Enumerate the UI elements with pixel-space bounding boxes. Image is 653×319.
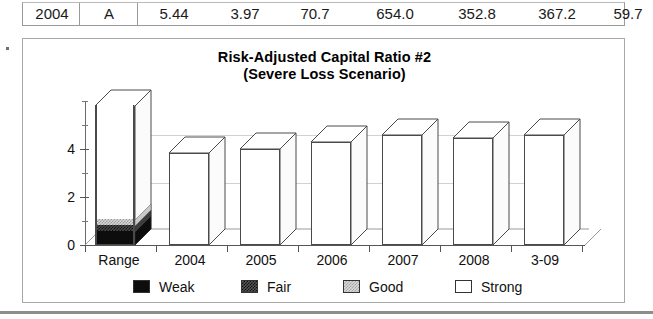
table-row: 2004 A 5.44 3.97 70.7 654.0 352.8 367.2 … [22,2,625,26]
y-tick-4 [80,149,89,150]
table-cell-value-3: 70.7 [277,3,353,25]
bar-range-front-face [95,106,135,245]
page-bottom-rule [0,311,653,314]
legend-swatch-fair-icon [241,280,258,293]
legend-label-fair: Fair [267,278,291,296]
plot-area: 4 2 0 [23,39,626,304]
legend-label-strong: Strong [481,278,522,296]
legend-swatch-weak-icon [133,280,150,293]
y-axis-label-2: 2 [53,190,75,204]
bar-2006-front-face [311,142,351,245]
table-cell-value-5: 352.8 [437,3,517,25]
x-axis-label-2007: 2007 [370,252,436,268]
bar-range-segment-strong [96,105,134,219]
table-cell-year: 2004 [25,3,79,25]
screenshot-page: 2004 A 5.44 3.97 70.7 654.0 352.8 367.2 … [0,0,653,319]
x-axis-label-2006: 2006 [299,252,365,268]
legend-swatch-strong-icon [455,280,472,293]
x-axis-label-range: Range [86,252,152,268]
y-tick-minor-1 [82,221,88,222]
bar-2007 [382,39,442,245]
bar-range-segment-weak [96,231,134,244]
legend-swatch-good-icon [343,280,360,293]
bar-2008 [453,39,513,245]
chart-container: Risk-Adjusted Capital Ratio #2 (Severe L… [22,38,625,303]
bar-2007-front-face [382,135,422,245]
bar-range [95,39,155,245]
y-tick-minor-4b [82,125,88,126]
legend-label-weak: Weak [159,278,195,296]
x-axis-label-2005: 2005 [228,252,294,268]
bar-3-09-front-face [524,135,564,245]
legend-label-good: Good [369,278,403,296]
x-axis-label-2008: 2008 [441,252,507,268]
bar-2006 [311,39,371,245]
y-tick-minor-5 [82,101,88,102]
bar-2004-front-face [169,153,209,245]
table-cell-divider [79,3,80,25]
bar-2005 [240,39,300,245]
y-tick-2 [80,197,89,198]
table-cell-grade: A [83,3,135,25]
table-cell-value-6: 367.2 [517,3,597,25]
scan-artifact-dot [6,47,9,50]
chart-legend: Weak Fair Good Strong [23,278,626,298]
x-axis-label-3-09: 3-09 [512,252,578,268]
y-axis-label-4: 4 [53,142,75,156]
table-cell-value-4: 654.0 [353,3,437,25]
table-cell-value-1: 5.44 [135,3,213,25]
x-axis-label-2004: 2004 [157,252,223,268]
bar-2008-front-face [453,138,493,245]
y-axis-label-0: 0 [53,238,75,252]
bar-2005-front-face [240,149,280,245]
bar-2004 [169,39,229,245]
table-cell-value-2: 3.97 [213,3,277,25]
y-tick-minor-3 [82,173,88,174]
bar-3-09 [524,39,584,245]
table-cell-value-7: 59.7 [597,3,653,25]
